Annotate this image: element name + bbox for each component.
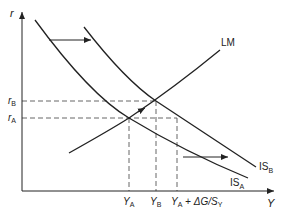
y-axis-label: r bbox=[10, 7, 15, 19]
axes bbox=[22, 12, 274, 191]
y-a-plus-suffix-sub: Y bbox=[218, 201, 223, 208]
y-a-sub: A bbox=[130, 201, 135, 208]
arrows bbox=[49, 40, 228, 157]
lm-curve bbox=[69, 50, 220, 153]
is-a-label: ISA bbox=[230, 177, 244, 190]
y-a-plus-suffix: + ΔG/S bbox=[182, 196, 218, 207]
r-b-label: rB bbox=[8, 95, 16, 107]
is-b-label: ISB bbox=[259, 161, 273, 174]
is-a-curve bbox=[35, 20, 248, 178]
is-b-label-main: IS bbox=[259, 161, 269, 172]
is-a-label-sub: A bbox=[239, 183, 244, 190]
y-a-label: YA bbox=[123, 196, 135, 208]
lm-label: LM bbox=[221, 37, 235, 48]
x-axis-label: Y bbox=[267, 197, 275, 209]
y-b-sub: B bbox=[157, 201, 162, 208]
lm-movement-arrow bbox=[138, 108, 145, 112]
r-a-label: rA bbox=[8, 112, 16, 124]
is-b-curve bbox=[84, 27, 256, 167]
is-b-label-sub: B bbox=[268, 167, 273, 174]
guide-lines bbox=[22, 101, 177, 191]
y-a-plus-label: YA + ΔG/SY bbox=[171, 196, 223, 208]
r-b-sub: B bbox=[11, 100, 16, 107]
is-lm-diagram: r Y LM ISB ISA rB rA YA YB YA + ΔG/SY bbox=[0, 0, 283, 214]
y-b-label: YB bbox=[150, 196, 162, 208]
r-a-sub: A bbox=[11, 117, 16, 124]
is-a-label-main: IS bbox=[230, 177, 240, 188]
